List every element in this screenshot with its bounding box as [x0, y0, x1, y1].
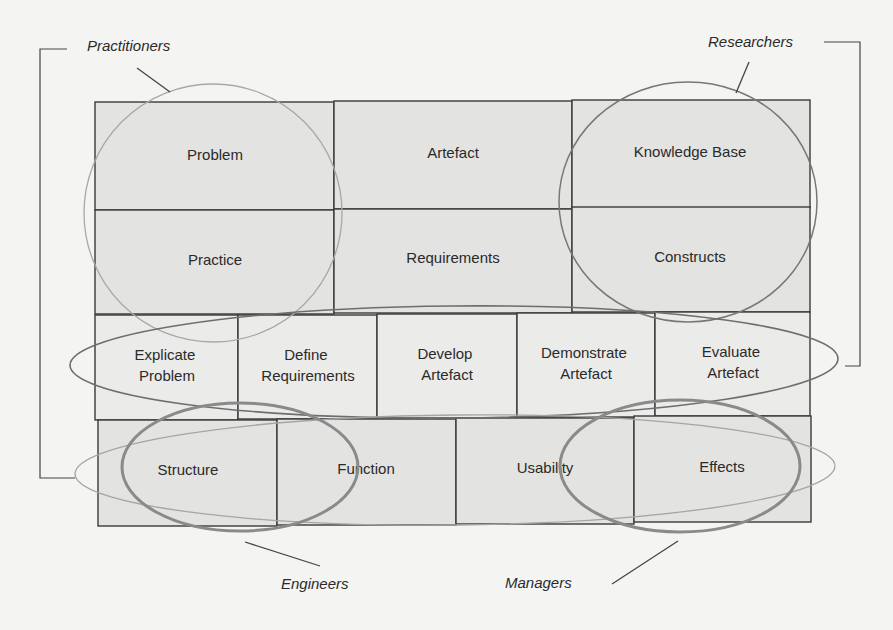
- label-requirements: Requirements: [406, 249, 499, 266]
- label-artefact: Artefact: [427, 144, 480, 161]
- engineers-leader: [245, 542, 320, 566]
- practitioners-bracket: [40, 49, 75, 478]
- engineers-label: Engineers: [281, 575, 349, 592]
- label-function: Function: [337, 460, 395, 477]
- researchers-bracket: [824, 42, 860, 366]
- label-effects: Effects: [699, 458, 745, 475]
- label-usability: Usability: [517, 459, 574, 476]
- label-problem: Problem: [187, 146, 243, 163]
- stakeholder-diagram: Problem Artefact Knowledge Base Practice…: [0, 0, 893, 630]
- label-constructs: Constructs: [654, 248, 726, 265]
- researchers-leader: [736, 62, 749, 93]
- row-2: Practice Requirements Constructs: [95, 207, 810, 314]
- label-practice: Practice: [188, 251, 242, 268]
- managers-label: Managers: [505, 574, 572, 591]
- label-knowledge-base: Knowledge Base: [634, 143, 747, 160]
- practitioners-leader: [137, 68, 170, 92]
- researchers-label: Researchers: [708, 33, 794, 50]
- row-3: Explicate Problem Define Requirements De…: [95, 312, 810, 420]
- label-structure: Structure: [158, 461, 219, 478]
- managers-leader: [612, 541, 678, 584]
- practitioners-label: Practitioners: [87, 37, 171, 54]
- row-1: Problem Artefact Knowledge Base: [95, 100, 810, 210]
